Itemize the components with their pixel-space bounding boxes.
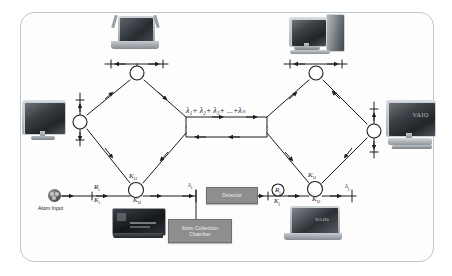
label-right-R: Rj bbox=[275, 186, 281, 195]
device-laptop-top-left bbox=[106, 14, 168, 56]
label-left-K: Ki bbox=[94, 196, 100, 205]
label-left-node-top: Kl1 bbox=[129, 172, 137, 181]
detector-box: Detector bbox=[206, 187, 258, 204]
label-stub-i-symbol: i bbox=[161, 232, 163, 240]
label-right-K: Kj bbox=[274, 197, 280, 206]
edge-left-lower-right bbox=[143, 133, 186, 183]
label-left-lambda-sub: i bbox=[191, 185, 192, 190]
device-laptop-bottom-right: VAIO bbox=[284, 206, 346, 246]
edge-right-upper-left bbox=[267, 80, 309, 117]
label-left-node-top-sub: l1 bbox=[134, 176, 138, 181]
device-console-bottom-left bbox=[112, 208, 166, 242]
label-right-node-bottom: Kl2 bbox=[312, 195, 320, 204]
atom-input-label: Atom Input bbox=[38, 205, 63, 211]
node-right-top bbox=[309, 66, 323, 80]
node-left-top bbox=[130, 66, 144, 80]
label-left-R-sub: i bbox=[98, 187, 99, 192]
label-left-node-bottom-sub: l2 bbox=[138, 200, 142, 205]
label-stub-i: i bbox=[161, 232, 163, 240]
label-left-R: Ri bbox=[94, 183, 100, 192]
channel-upper-rail bbox=[186, 117, 267, 127]
label-right-node-top: Kl1 bbox=[308, 171, 316, 180]
node-right-mid bbox=[367, 124, 381, 138]
label-left-lambda: λi bbox=[188, 181, 192, 190]
vaio-logo-laptop: VAIO bbox=[315, 217, 329, 222]
detector-label: Detector bbox=[222, 192, 242, 199]
edge-right-upper-right bbox=[323, 80, 367, 124]
figure-canvas: VAIO VAIO Detector Atom Collection Chamb… bbox=[0, 0, 452, 276]
node-left-mid bbox=[73, 115, 87, 129]
channel-sum-text: λ₁+ λ₂+ λ₃+ ...+λₙ bbox=[186, 106, 245, 115]
label-right-K-sub: j bbox=[279, 201, 280, 206]
label-right-lambda: λj bbox=[345, 182, 349, 191]
label-right-R-sub: j bbox=[279, 190, 280, 195]
atom-input-glyph bbox=[48, 189, 61, 202]
label-left-K-sub: i bbox=[99, 200, 100, 205]
edge-left-lower-left bbox=[87, 129, 130, 183]
label-right-node-top-sub: l1 bbox=[313, 175, 317, 180]
arrow-left-lr bbox=[161, 152, 168, 160]
edge-left-upper-left bbox=[87, 80, 130, 115]
device-desktop-top-right bbox=[288, 12, 352, 58]
label-left-node-bottom: Kl2 bbox=[133, 196, 141, 205]
device-monitor-left bbox=[22, 100, 66, 146]
device-monitor-right-vaio: VAIO bbox=[386, 100, 436, 156]
channel-sum-label: λ₁+ λ₂+ λ₃+ ...+λₙ bbox=[186, 106, 245, 115]
channel-lower-rail bbox=[186, 127, 267, 137]
chamber-label-line2: Chamber bbox=[189, 231, 210, 238]
arrow-left-ur bbox=[158, 92, 166, 99]
label-right-lambda-sub: j bbox=[348, 186, 349, 191]
vaio-logo-monitor: VAIO bbox=[412, 112, 429, 118]
atom-collection-chamber-box: Atom Collection Chamber bbox=[168, 219, 232, 243]
edge-right-lower-right bbox=[322, 138, 367, 183]
arrow-right-lr bbox=[345, 148, 352, 157]
label-right-node-bottom-sub: l2 bbox=[317, 199, 321, 204]
edge-right-lower-left bbox=[267, 133, 309, 183]
